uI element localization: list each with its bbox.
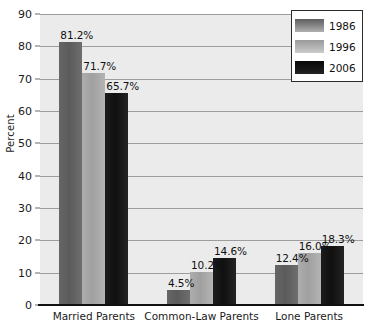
y-axis-tick-label: 40 xyxy=(18,169,32,182)
bar xyxy=(82,73,105,305)
x-axis-category-label: Married Parents xyxy=(53,310,135,322)
bar-value-label: 81.2% xyxy=(60,29,93,41)
chart-legend: 198619962006 xyxy=(291,10,363,82)
y-axis-tick-label: 20 xyxy=(18,234,32,247)
bar-value-label: 10.2% xyxy=(191,259,224,271)
legend-color-swatch xyxy=(295,40,324,53)
y-axis-tick-label: 50 xyxy=(18,137,32,150)
y-axis: 9080706050403020100 xyxy=(0,0,40,330)
legend-label: 1996 xyxy=(329,41,356,53)
x-axis-category-label: Common-Law Parents xyxy=(144,310,258,322)
y-axis-tick-label: 80 xyxy=(18,40,32,53)
y-axis-tick-label: 30 xyxy=(18,202,32,215)
legend-item: 2006 xyxy=(295,57,359,78)
bar xyxy=(321,246,344,305)
bar xyxy=(275,265,298,305)
legend-item: 1986 xyxy=(295,15,359,36)
bar xyxy=(167,290,190,305)
y-axis-tick-label: 60 xyxy=(18,105,32,118)
bar-chart: Percent 9080706050403020100 198619962006… xyxy=(0,0,375,330)
legend-color-swatch xyxy=(295,19,324,32)
bar-value-label: 4.5% xyxy=(168,277,194,289)
bar-value-label: 14.6% xyxy=(214,245,247,257)
y-axis-tick-label: 0 xyxy=(25,299,32,312)
legend-color-swatch xyxy=(295,61,324,74)
legend-label: 2006 xyxy=(329,62,356,74)
y-axis-tick-label: 10 xyxy=(18,266,32,279)
bar xyxy=(59,42,82,305)
bar xyxy=(105,93,128,305)
legend-item: 1996 xyxy=(295,36,359,57)
legend-label: 1986 xyxy=(329,20,356,32)
y-axis-tick-label: 90 xyxy=(18,8,32,21)
y-axis-tick-label: 70 xyxy=(18,72,32,85)
x-axis-category-label: Lone Parents xyxy=(275,310,343,322)
bar-value-label: 71.7% xyxy=(83,60,116,72)
x-axis-line xyxy=(38,304,364,306)
bar-value-label: 65.7% xyxy=(106,80,139,92)
bar-value-label: 12.4% xyxy=(276,252,309,264)
bar-value-label: 18.3% xyxy=(322,233,355,245)
